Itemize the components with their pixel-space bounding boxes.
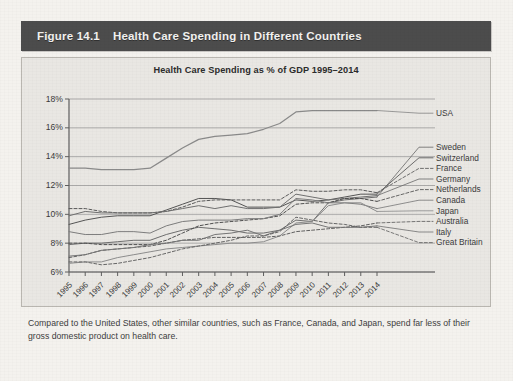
figure-number: Figure 14.1 xyxy=(37,30,100,42)
figure-header-bar: Figure 14.1 Health Care Spending in Diff… xyxy=(21,21,491,51)
chart-panel: Health Care Spending as % of GDP 1995–20… xyxy=(21,57,491,307)
figure-title: Health Care Spending in Different Countr… xyxy=(113,30,362,42)
figure-page: Figure 14.1 Health Care Spending in Diff… xyxy=(0,0,513,381)
figure-caption: Compared to the United States, other sim… xyxy=(28,317,484,343)
line-chart-plot xyxy=(22,58,492,308)
caption-text: Compared to the United States, other sim… xyxy=(28,317,484,343)
